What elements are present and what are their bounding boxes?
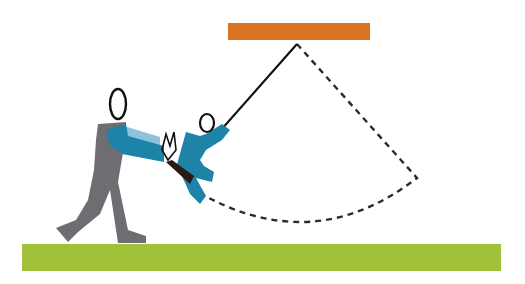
swing-beam	[228, 23, 370, 40]
swing-illustration	[0, 0, 525, 284]
child-on-swing	[166, 114, 230, 204]
adult-head	[110, 89, 126, 119]
swing-path-arc	[198, 44, 417, 222]
adult-pusher	[56, 89, 176, 243]
ground	[22, 244, 501, 271]
child-head	[200, 114, 214, 132]
